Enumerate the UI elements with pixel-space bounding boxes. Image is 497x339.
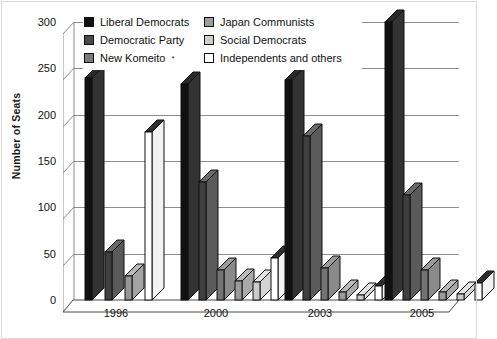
bar-1996-liberal-democrats xyxy=(85,60,107,300)
legend-item-new-komeito: New Komeito* xyxy=(84,52,204,64)
legend-label: Democratic Party xyxy=(100,34,184,46)
x-tick-2000: 2000 xyxy=(176,307,256,319)
y-tick-250: 250 xyxy=(22,63,56,74)
chart-legend: Liberal Democrats Japan Communists Democ… xyxy=(83,12,362,70)
y-tick-100: 100 xyxy=(22,202,56,213)
y-tick-150: 150 xyxy=(22,156,56,167)
legend-label: Liberal Democrats xyxy=(100,16,189,28)
x-tick-2005: 2005 xyxy=(382,307,462,319)
legend-label: New Komeito xyxy=(100,52,165,64)
y-tick-200: 200 xyxy=(22,110,56,121)
legend-footnote-marker: * xyxy=(171,54,174,63)
bar-1996-democratic-party xyxy=(105,240,127,300)
x-tick-2003: 2003 xyxy=(280,307,360,319)
legend-label: Japan Communists xyxy=(220,16,314,28)
bar-1996-japan-communists xyxy=(125,264,147,300)
legend-item-independents-and-others: Independents and others xyxy=(204,52,361,64)
y-tick-0: 0 xyxy=(22,295,56,306)
legend-item-social-democrats: Social Democrats xyxy=(204,34,361,46)
y-tick-300: 300 xyxy=(22,17,56,28)
legend-swatch-icon xyxy=(84,53,94,63)
bar-1996-independents-and-others xyxy=(145,120,167,300)
legend-swatch-icon xyxy=(204,17,214,27)
axis-left-wall xyxy=(63,17,75,305)
legend-item-liberal-democrats: Liberal Democrats xyxy=(84,16,204,28)
legend-swatch-icon xyxy=(84,35,94,45)
legend-item-democratic-party: Democratic Party xyxy=(84,34,204,46)
legend-swatch-icon xyxy=(84,17,94,27)
x-tick-1996: 1996 xyxy=(76,307,156,319)
legend-item-japan-communists: Japan Communists xyxy=(204,16,361,28)
bar-2005-independents-and-others xyxy=(475,271,497,300)
legend-swatch-icon xyxy=(204,35,214,45)
legend-label: Social Democrats xyxy=(220,34,306,46)
y-tick-50: 50 xyxy=(22,249,56,260)
legend-swatch-icon xyxy=(204,53,214,63)
legend-label: Independents and others xyxy=(220,52,342,64)
y-axis-tick-labels: 300 250 200 150 100 50 0 xyxy=(20,0,56,338)
